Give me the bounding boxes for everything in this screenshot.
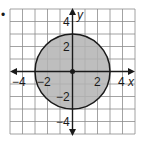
x-axis-label: x [127, 75, 135, 89]
problem-bullet: • [1, 8, 5, 22]
x-tick-label: 2 [94, 75, 101, 89]
x-tick-label: 4 [118, 75, 125, 89]
coordinate-plane: • y x −4 −2 [0, 0, 142, 147]
y-axis-down-arrow-icon [69, 129, 76, 136]
center-point [70, 69, 75, 74]
y-tick-label: −4 [56, 115, 70, 129]
y-tick-label: 4 [63, 15, 70, 29]
y-axis-label: y [76, 8, 84, 22]
x-tick-label: −4 [12, 75, 26, 89]
x-axis-left-arrow-icon [10, 68, 17, 75]
y-tick-label: 2 [63, 40, 70, 54]
x-axis-right-arrow-icon [128, 68, 135, 75]
x-tick-label: −2 [37, 75, 51, 89]
y-tick-label: −2 [56, 90, 70, 104]
